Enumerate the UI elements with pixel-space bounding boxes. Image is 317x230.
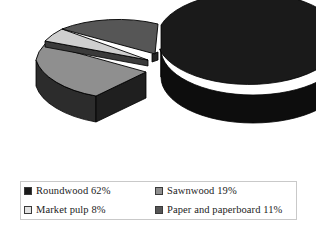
- legend-swatch-icon: [155, 206, 163, 214]
- chart-legend: Roundwood 62% Sawnwood 19% Market pulp 8…: [20, 181, 297, 220]
- legend-label-paper-and-paperboard: Paper and paperboard 11%: [167, 204, 282, 216]
- pie-slice-roundwood[interactable]: [160, 0, 317, 123]
- legend-item-sawnwood[interactable]: Sawnwood 19%: [155, 185, 296, 197]
- legend-item-market-pulp[interactable]: Market pulp 8%: [24, 204, 155, 216]
- legend-label-market-pulp: Market pulp 8%: [36, 204, 106, 216]
- legend-item-paper-and-paperboard[interactable]: Paper and paperboard 11%: [155, 204, 296, 216]
- pie-chart-figure: Roundwood 62% Sawnwood 19% Market pulp 8…: [0, 0, 316, 230]
- legend-swatch-icon: [24, 206, 32, 214]
- legend-swatch-icon: [24, 187, 32, 195]
- pie-plot-area: [0, 0, 316, 172]
- legend-label-roundwood: Roundwood 62%: [36, 185, 111, 197]
- legend-item-roundwood[interactable]: Roundwood 62%: [24, 185, 155, 197]
- pie-slice-roundwood-top: [160, 0, 317, 84]
- legend-label-sawnwood: Sawnwood 19%: [167, 185, 237, 197]
- pie-chart-graphic: [0, 0, 316, 172]
- legend-swatch-icon: [155, 187, 163, 195]
